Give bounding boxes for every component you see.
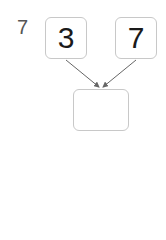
answer-box[interactable] <box>73 89 129 131</box>
